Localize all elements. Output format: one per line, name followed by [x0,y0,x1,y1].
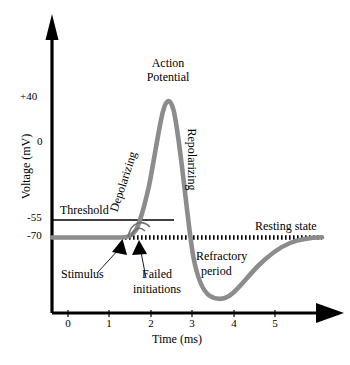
x-tick-label-1: 1 [101,318,117,330]
threshold-label: Threshold [60,204,109,217]
x-axis-title: Time (ms) [152,333,202,346]
y-tick-label-zero: 0 [37,136,43,148]
y-tick-label-plus40: +40 [20,91,37,103]
y-axis [46,14,59,313]
action-potential-label-line1: Action [128,57,208,70]
resting-state-label: Resting state [255,220,317,233]
refractory-period-label-line1: Refractory [196,250,247,263]
refractory-period-label-line2: period [201,265,232,278]
y-tick-label-minus55: -55 [27,212,42,224]
y-tick-label-minus70: -70 [27,230,42,242]
x-tick-label-5: 5 [267,318,283,330]
x-tick-label-3: 3 [184,318,200,330]
action-potential-figure: Voltage (mV) +40 0 -55 -70 0 1 2 3 4 5 T… [0,0,350,365]
x-tick-label-2: 2 [143,318,159,330]
failed-initiations-label-line1: Failed [124,268,190,281]
action-potential-label-line2: Potential [128,71,208,84]
x-tick-label-0: 0 [60,318,76,330]
failed-initiations-label-line2: initiations [114,283,200,296]
x-tick-label-4: 4 [226,318,242,330]
figure-canvas [0,0,350,365]
y-axis-title: Voltage (mV) [20,124,33,208]
stimulus-label: Stimulus [61,268,104,281]
repolarizing-label: Repolarizing [186,128,199,190]
